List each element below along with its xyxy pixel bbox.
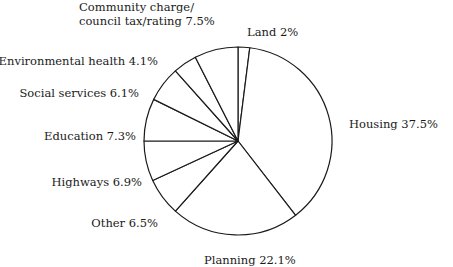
- pie-slices: [144, 47, 332, 235]
- slice-label: Environmental health 4.1%: [0, 54, 158, 68]
- slice-label: Land 2%: [247, 25, 298, 39]
- slice-label: Social services 6.1%: [19, 86, 139, 100]
- slice-label: Community charge/council tax/rating 7.5%: [79, 0, 215, 28]
- slice-label: Housing 37.5%: [349, 117, 438, 131]
- slice-label: Education 7.3%: [44, 129, 136, 143]
- slice-label: Other 6.5%: [91, 216, 158, 230]
- slice-label: Highways 6.9%: [52, 175, 143, 189]
- slice-label: Planning 22.1%: [204, 253, 296, 267]
- pie-chart: Land 2%Housing 37.5%Planning 22.1%Other …: [0, 0, 453, 267]
